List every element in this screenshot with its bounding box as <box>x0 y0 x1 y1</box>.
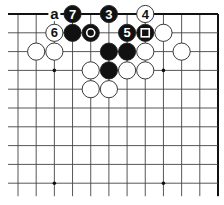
move-number: 4 <box>142 7 150 22</box>
stone-disc <box>64 24 81 41</box>
stone-disc <box>100 62 117 79</box>
move-number: 3 <box>105 7 112 22</box>
stone-disc <box>28 43 45 60</box>
stone-disc <box>173 43 190 60</box>
stone-disc <box>82 81 99 98</box>
black-stone <box>118 43 135 60</box>
black-stone <box>100 43 117 60</box>
white-stone <box>82 62 99 79</box>
board-grid <box>8 14 218 196</box>
white-stone <box>137 43 154 60</box>
stone-disc <box>82 62 99 79</box>
stone-disc <box>137 62 154 79</box>
star-point <box>162 181 166 185</box>
white-stone <box>46 43 63 60</box>
black-stone: 7 <box>64 5 81 22</box>
black-stone: 3 <box>100 5 117 22</box>
stone-disc <box>82 24 99 41</box>
white-stone <box>137 62 154 79</box>
stone-disc <box>137 43 154 60</box>
point-labels: a <box>48 5 60 22</box>
stone-disc <box>100 43 117 60</box>
point-label: a <box>50 5 59 22</box>
go-board: 73465 a <box>0 0 224 205</box>
black-stone: 5 <box>118 24 135 41</box>
black-stone <box>64 24 81 41</box>
stone-disc <box>118 43 135 60</box>
stone-disc <box>46 43 63 60</box>
move-number: 6 <box>51 25 58 40</box>
white-stone <box>173 43 190 60</box>
stone-disc <box>137 24 154 41</box>
white-stone <box>118 62 135 79</box>
star-point <box>162 69 166 73</box>
white-stone <box>155 24 172 41</box>
stone-disc <box>100 81 117 98</box>
stone-disc <box>118 62 135 79</box>
stone-disc <box>155 24 172 41</box>
white-stone: 4 <box>137 5 154 22</box>
white-stone <box>82 81 99 98</box>
star-point <box>53 181 57 185</box>
white-stone <box>100 81 117 98</box>
star-point <box>53 69 57 73</box>
move-number: 5 <box>123 25 130 40</box>
black-stone <box>82 24 99 41</box>
black-stone <box>100 62 117 79</box>
move-number: 7 <box>69 7 76 22</box>
black-stone <box>137 24 154 41</box>
white-stone <box>28 43 45 60</box>
white-stone: 6 <box>46 24 63 41</box>
